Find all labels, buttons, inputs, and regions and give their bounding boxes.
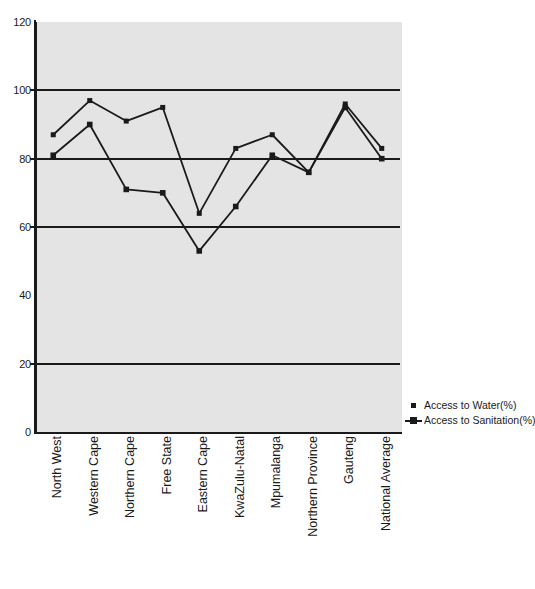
y-tick-label-120: 120 bbox=[1, 17, 31, 28]
x-axis-label-mpumalanga: Mpumalanga bbox=[266, 436, 279, 508]
y-tick-label-40: 40 bbox=[1, 290, 31, 301]
x-axis-label-northern-province: Northern Province bbox=[303, 436, 316, 537]
x-axis-category-labels: North WestWestern CapeNorthern CapeFree … bbox=[0, 436, 527, 589]
y-tick-mark-100 bbox=[30, 89, 35, 91]
legend-label-sanitation: Access to Sanitation(%) bbox=[424, 414, 535, 426]
x-axis-label-northern-cape: Northern Cape bbox=[120, 436, 133, 518]
y-tick-label-100: 100 bbox=[1, 85, 31, 96]
x-axis-line bbox=[34, 432, 402, 434]
gridline-100 bbox=[35, 89, 400, 91]
y-tick-label-60: 60 bbox=[1, 222, 31, 233]
gridline-20 bbox=[35, 363, 400, 365]
x-axis-label-eastern-cape: Eastern Cape bbox=[193, 436, 206, 512]
y-tick-label-20: 20 bbox=[1, 359, 31, 370]
chart-legend: Access to Water(%) Access to Sanitation(… bbox=[404, 398, 527, 428]
x-axis-label-north-west: North West bbox=[47, 436, 60, 498]
y-tick-mark-80 bbox=[30, 158, 35, 160]
y-tick-mark-60 bbox=[30, 226, 35, 228]
gridline-60 bbox=[35, 226, 400, 228]
gridline-80 bbox=[35, 158, 400, 160]
y-tick-label-80: 80 bbox=[1, 154, 31, 165]
x-axis-label-gauteng: Gauteng bbox=[339, 436, 352, 484]
y-tick-mark-20 bbox=[30, 363, 35, 365]
x-axis-label-national-average: National Average bbox=[376, 436, 389, 531]
legend-item-water[interactable]: Access to Water(%) bbox=[404, 398, 527, 412]
x-axis-label-kwazulu-natal: KwaZulu-Natal bbox=[230, 436, 243, 518]
legend-label-water: Access to Water(%) bbox=[424, 399, 516, 411]
legend-marker-square-icon bbox=[404, 399, 424, 411]
legend-item-sanitation[interactable]: Access to Sanitation(%) bbox=[404, 413, 527, 427]
legend-marker-square-line-icon bbox=[404, 414, 424, 426]
x-axis-label-western-cape: Western Cape bbox=[84, 436, 97, 516]
x-axis-label-free-state: Free State bbox=[157, 436, 170, 494]
